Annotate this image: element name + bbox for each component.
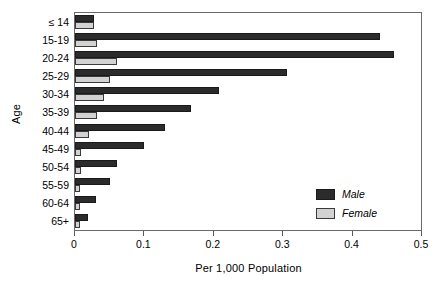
chart-legend: Male Female	[316, 186, 404, 224]
bar-male	[75, 160, 117, 167]
legend-swatch-male-icon	[316, 189, 335, 200]
y-axis-tick-label: 35-39	[0, 106, 69, 118]
bar-group	[75, 85, 422, 103]
legend-label-female: Female	[342, 207, 377, 219]
y-axis-tick-label: 20-24	[0, 52, 69, 64]
legend-swatch-female-icon	[316, 208, 335, 219]
x-axis-tick-label: 0.1	[123, 238, 163, 250]
bar-group	[75, 31, 422, 49]
x-axis-tick-label: 0.4	[332, 238, 372, 250]
y-axis-tick-label: 15-19	[0, 34, 69, 46]
bar-female	[75, 94, 104, 101]
x-axis-tick-mark	[282, 231, 283, 236]
y-axis-tick-label: 65+	[0, 215, 69, 227]
bar-female	[75, 149, 81, 156]
bar-group	[75, 49, 422, 67]
bar-male	[75, 87, 219, 94]
bar-male	[75, 142, 144, 149]
x-axis-tick-mark	[213, 231, 214, 236]
y-axis-tick-label: 60-64	[0, 197, 69, 209]
y-axis-tick-label: 55-59	[0, 179, 69, 191]
bar-female	[75, 221, 80, 228]
bar-group	[75, 140, 422, 158]
y-axis-tick-label: ≤ 14	[0, 16, 69, 28]
bar-female	[75, 185, 80, 192]
x-axis-tick-mark	[421, 231, 422, 236]
bar-chart: Age ≤ 1415-1920-2425-2930-3435-3940-4445…	[0, 0, 441, 291]
bar-male	[75, 105, 191, 112]
bar-group	[75, 158, 422, 176]
y-axis-tick-labels: ≤ 1415-1920-2425-2930-3435-3940-4445-495…	[0, 13, 69, 230]
bar-male	[75, 69, 287, 76]
bar-group	[75, 67, 422, 85]
bar-male	[75, 178, 110, 185]
x-axis-title: Per 1,000 Population	[74, 262, 423, 274]
bar-male	[75, 15, 94, 22]
x-axis-tick-label: 0.2	[193, 238, 233, 250]
bar-male	[75, 214, 88, 221]
bar-female	[75, 58, 117, 65]
bar-female	[75, 22, 94, 29]
bar-female	[75, 131, 89, 138]
x-axis-tick-label: 0.3	[262, 238, 302, 250]
x-axis-tick-label: 0	[54, 238, 94, 250]
bar-male	[75, 33, 380, 40]
y-axis-tick-label: 50-54	[0, 161, 69, 173]
bar-group	[75, 13, 422, 31]
bar-female	[75, 203, 80, 210]
y-axis-tick-label: 25-29	[0, 70, 69, 82]
x-axis-tick-labels: 00.10.20.30.40.5	[74, 238, 423, 254]
x-axis-tick-mark	[352, 231, 353, 236]
bar-female	[75, 112, 97, 119]
legend-item-male: Male	[316, 186, 404, 202]
y-axis-tick-label: 40-44	[0, 125, 69, 137]
bar-male	[75, 196, 96, 203]
y-axis-tick-label: 30-34	[0, 88, 69, 100]
x-axis-tick-label: 0.5	[401, 238, 441, 250]
bar-female	[75, 167, 81, 174]
bar-group	[75, 103, 422, 121]
bar-female	[75, 76, 110, 83]
bar-group	[75, 122, 422, 140]
x-axis-tick-mark	[143, 231, 144, 236]
legend-item-female: Female	[316, 205, 404, 221]
bar-male	[75, 51, 394, 58]
x-axis-tick-mark	[74, 231, 75, 236]
y-axis-tick-label: 45-49	[0, 143, 69, 155]
legend-label-male: Male	[342, 188, 365, 200]
bar-female	[75, 40, 97, 47]
bar-male	[75, 124, 165, 131]
